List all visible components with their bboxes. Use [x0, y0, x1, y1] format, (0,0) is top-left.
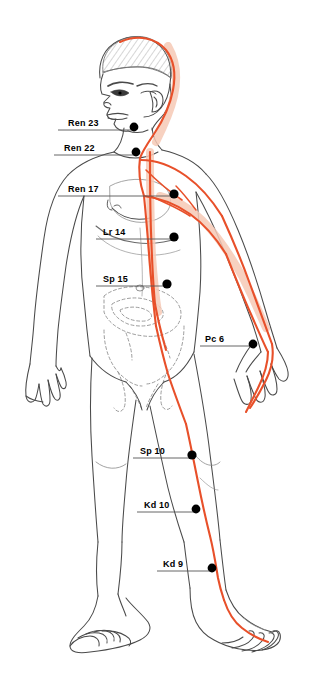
acupoint-label-ren-22: Ren 22 [64, 143, 95, 153]
acupoint-dot-pc-6 [249, 340, 258, 349]
acupoint-label-kd-10: Kd 10 [144, 500, 170, 510]
acupoint-dot-kd-10 [192, 505, 201, 514]
acupoint-dot-sp-15 [162, 279, 171, 288]
acupoint-dot-sp-10 [187, 450, 196, 459]
acupoint-label-ren-17: Ren 17 [68, 184, 99, 194]
acupoint-label-pc-6: Pc 6 [205, 334, 224, 344]
acupoint-label-sp-15: Sp 15 [103, 274, 128, 284]
acupoint-label-lr-14: Lr 14 [103, 227, 126, 237]
acupoint-dot-ren-23 [130, 123, 139, 132]
acupoint-label-sp-10: Sp 10 [140, 446, 165, 456]
acupoint-dot-lr-14 [169, 232, 178, 241]
acupoint-label-kd-9: Kd 9 [163, 559, 183, 569]
acupoint-dot-kd-9 [208, 564, 217, 573]
acupoint-dot-ren-22 [132, 148, 141, 157]
acupoint-label-ren-23: Ren 23 [68, 118, 99, 128]
meridian-lines [120, 38, 273, 642]
acupoint-dot-ren-17 [169, 189, 178, 198]
internal-organs-dashed [104, 287, 184, 412]
meridian-chart: Ren 23 Ren 22 Ren 17 Lr 14 Sp 15 Pc 6 Sp… [0, 0, 314, 698]
anatomy-illustration [0, 0, 314, 698]
